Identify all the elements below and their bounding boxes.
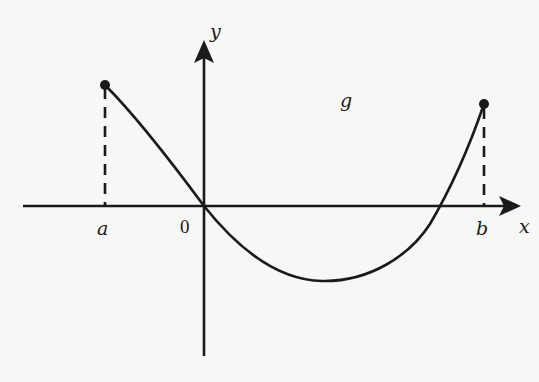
endpoint-b-dot: [479, 99, 489, 109]
x-axis-label: x: [519, 215, 530, 237]
function-graph: y x 0 a b g: [0, 0, 539, 382]
x-axis: [23, 196, 521, 216]
curve-g: [105, 85, 484, 281]
b-label: b: [476, 217, 488, 239]
y-axis-label: y: [209, 20, 221, 42]
endpoint-a-dot: [100, 80, 110, 90]
function-label: g: [340, 89, 352, 111]
a-label: a: [97, 217, 108, 239]
origin-label: 0: [180, 216, 190, 237]
